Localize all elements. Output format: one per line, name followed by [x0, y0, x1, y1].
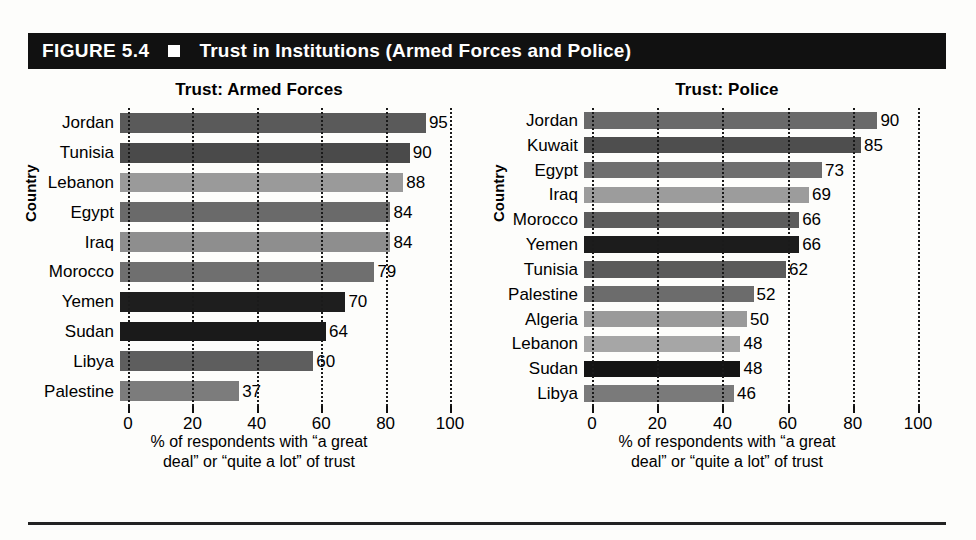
- bar-cell: 70: [120, 287, 498, 317]
- x-axis-tick: [257, 406, 259, 413]
- bar-row: Tunisia90: [20, 138, 498, 168]
- x-axis-title-line2: deal” or “quite a lot” of trust: [20, 452, 498, 472]
- bar-value-label: 95: [429, 114, 448, 131]
- bar-value-label: 60: [316, 353, 335, 370]
- bar-value-label: 66: [802, 211, 821, 228]
- bar-cell: 48: [584, 331, 966, 356]
- bar-cell: 37: [120, 376, 498, 406]
- bar-row: Morocco79: [20, 257, 498, 287]
- bar-value-label: 84: [393, 204, 412, 221]
- bar-category-label: Sudan: [20, 323, 120, 340]
- bar-row: Sudan48: [488, 356, 966, 381]
- bar-value-label: 84: [393, 234, 412, 251]
- x-axis-tick-label: 20: [183, 414, 202, 434]
- bar-value-label: 62: [789, 261, 808, 278]
- x-axis-tick-label: 60: [778, 414, 797, 434]
- bar-cell: 85: [584, 133, 966, 158]
- x-axis-tick: [192, 406, 194, 413]
- bar-category-label: Tunisia: [488, 261, 584, 278]
- x-axis-tick: [918, 406, 920, 413]
- bar-row: Lebanon88: [20, 168, 498, 198]
- bottom-divider: [28, 522, 946, 525]
- x-axis-tick-label: 100: [904, 414, 932, 434]
- bar-value-label: 37: [242, 383, 261, 400]
- bar-cell: 50: [584, 307, 966, 332]
- bar-cell: 60: [120, 346, 498, 376]
- bar-category-label: Tunisia: [20, 144, 120, 161]
- x-axis-tick: [450, 406, 452, 413]
- bar-category-label: Jordan: [20, 114, 120, 131]
- bar: [120, 262, 374, 282]
- bar-category-label: Egypt: [20, 204, 120, 221]
- bar: [584, 286, 754, 302]
- x-axis-left: 020406080100: [20, 406, 498, 428]
- figure-number: FIGURE 5.4: [42, 40, 149, 62]
- bar-category-label: Algeria: [488, 311, 584, 328]
- figure-title-bar: FIGURE 5.4 Trust in Institutions (Armed …: [28, 33, 946, 69]
- bar-category-label: Libya: [20, 353, 120, 370]
- bar-category-label: Morocco: [20, 263, 120, 280]
- bar: [584, 311, 747, 327]
- x-axis-tick-label: 80: [843, 414, 862, 434]
- bar-row: Yemen70: [20, 287, 498, 317]
- x-axis-tick-label: 20: [648, 414, 667, 434]
- bar-category-label: Iraq: [488, 186, 584, 203]
- bar-value-label: 73: [825, 162, 844, 179]
- bar-row: Libya60: [20, 346, 498, 376]
- bar-row: Kuwait85: [488, 133, 966, 158]
- x-axis-tick: [592, 406, 594, 413]
- x-axis-tick: [128, 406, 130, 413]
- bar-row: Iraq84: [20, 227, 498, 257]
- bar: [120, 322, 326, 342]
- bar-row: Libya46: [488, 381, 966, 406]
- bar: [584, 162, 822, 178]
- filled-square-icon: [168, 45, 180, 57]
- x-axis-tick: [722, 406, 724, 413]
- bar-value-label: 90: [413, 144, 432, 161]
- bar: [120, 113, 426, 133]
- x-axis-tick-label: 0: [123, 414, 132, 434]
- figure-container: FIGURE 5.4 Trust in Institutions (Armed …: [0, 0, 976, 540]
- bar-cell: 46: [584, 381, 966, 406]
- bar-cell: 73: [584, 158, 966, 183]
- x-axis-tick: [386, 406, 388, 413]
- bar: [584, 137, 861, 153]
- bar: [120, 381, 239, 401]
- bar-cell: 90: [584, 108, 966, 133]
- x-axis-title-line1: % of respondents with “a great: [488, 432, 966, 452]
- bar-category-label: Libya: [488, 385, 584, 402]
- bar-cell: 84: [120, 227, 498, 257]
- x-axis-tick-label: 40: [713, 414, 732, 434]
- bar-row: Iraq69: [488, 182, 966, 207]
- bar-row: Yemen66: [488, 232, 966, 257]
- x-axis-title-left: % of respondents with “a great deal” or …: [20, 432, 498, 472]
- bar-cell: 66: [584, 232, 966, 257]
- bar-cell: 62: [584, 257, 966, 282]
- bar-cell: 84: [120, 197, 498, 227]
- bar: [120, 232, 390, 252]
- chart-panel-armed-forces: Trust: Armed Forces Country Jordan95Tuni…: [20, 74, 498, 504]
- figure-title: Trust in Institutions (Armed Forces and …: [199, 40, 631, 62]
- x-axis-tick: [853, 406, 855, 413]
- bar-value-label: 48: [743, 335, 762, 352]
- bar-cell: 88: [120, 168, 498, 198]
- x-axis-title-line2: deal” or “quite a lot” of trust: [488, 452, 966, 472]
- bar-category-label: Morocco: [488, 211, 584, 228]
- x-axis-tick: [321, 406, 323, 413]
- bar: [584, 261, 786, 277]
- chart-subtitle-police: Trust: Police: [488, 80, 966, 100]
- bar-row: Egypt84: [20, 197, 498, 227]
- bar-rows-left: Jordan95Tunisia90Lebanon88Egypt84Iraq84M…: [20, 108, 498, 406]
- bar-cell: 64: [120, 317, 498, 347]
- bar-value-label: 46: [737, 385, 756, 402]
- bar-category-label: Palestine: [488, 286, 584, 303]
- bar: [120, 202, 390, 222]
- bar: [584, 112, 877, 128]
- bar-row: Palestine37: [20, 376, 498, 406]
- bar-value-label: 69: [812, 186, 831, 203]
- bar-value-label: 50: [750, 311, 769, 328]
- bar-row: Palestine52: [488, 282, 966, 307]
- chart-subtitle-armed-forces: Trust: Armed Forces: [20, 80, 498, 100]
- bar-cell: 69: [584, 182, 966, 207]
- bar-cell: 52: [584, 282, 966, 307]
